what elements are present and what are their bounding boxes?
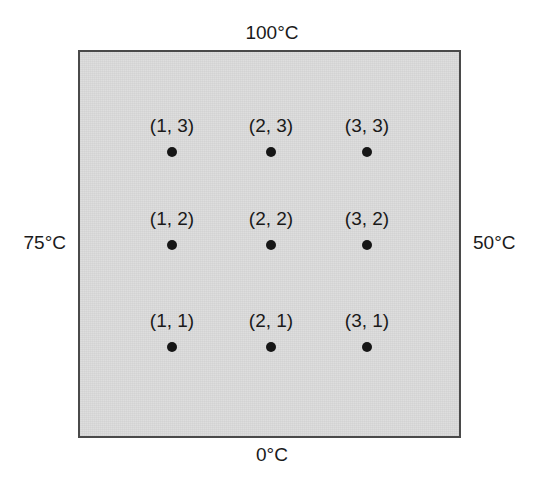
grid-node-dot-icon <box>362 147 372 157</box>
heat-plate-diagram: 100°C 75°C 50°C 0°C (1, 3) (2, 3) (3, 3)… <box>0 0 544 487</box>
grid-node-label: (2, 1) <box>216 310 326 332</box>
grid-node-label: (1, 2) <box>117 208 227 230</box>
grid-node-dot-icon <box>167 240 177 250</box>
grid-node-dot-icon <box>266 147 276 157</box>
boundary-label-bottom: 0°C <box>0 444 544 466</box>
grid-node-label: (2, 3) <box>216 115 326 137</box>
grid-node-dot-icon <box>167 342 177 352</box>
grid-node-label: (3, 2) <box>312 208 422 230</box>
boundary-label-right: 50°C <box>473 232 515 254</box>
grid-node-label: (1, 3) <box>117 115 227 137</box>
grid-node-label: (3, 1) <box>312 310 422 332</box>
boundary-label-top: 100°C <box>0 22 544 44</box>
grid-node-dot-icon <box>266 240 276 250</box>
grid-node-dot-icon <box>266 342 276 352</box>
grid-node-label: (3, 3) <box>312 115 422 137</box>
boundary-label-left: 75°C <box>24 232 66 254</box>
grid-node-dot-icon <box>167 147 177 157</box>
grid-node-label: (1, 1) <box>117 310 227 332</box>
grid-node-dot-icon <box>362 342 372 352</box>
grid-node-label: (2, 2) <box>216 208 326 230</box>
grid-node-dot-icon <box>362 240 372 250</box>
